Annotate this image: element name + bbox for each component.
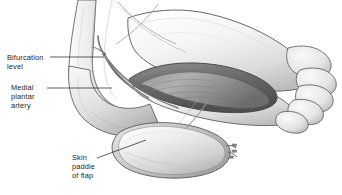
foot-flap-illustration — [0, 0, 342, 195]
medical-illustration-figure: Bifurcation level Medial plantar artery … — [0, 0, 342, 195]
